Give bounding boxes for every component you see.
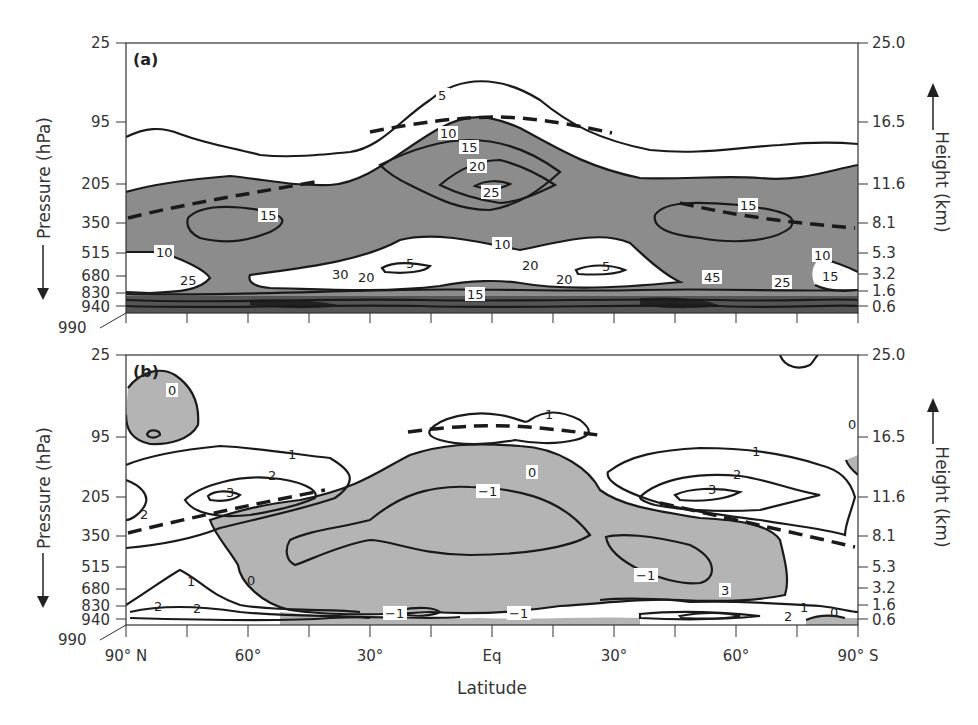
svg-text:515: 515 [81,558,110,576]
svg-text:20: 20 [358,270,375,285]
arrow-up-icon [927,83,939,97]
svg-text:25: 25 [91,346,110,364]
svg-text:−1: −1 [636,568,655,583]
svg-text:25: 25 [483,185,500,200]
svg-text:11.6: 11.6 [872,175,905,193]
shaded-region-b [210,444,787,614]
svg-text:0: 0 [848,417,856,432]
pressure-axis-a: 25 95 205 350 515 680 830 940 990 [58,34,126,337]
svg-text:1: 1 [545,407,553,422]
svg-text:20: 20 [522,258,539,273]
svg-text:Pressure (hPa): Pressure (hPa) [34,117,54,239]
svg-text:680: 680 [81,580,110,598]
svg-text:16.5: 16.5 [872,113,905,131]
svg-text:15: 15 [461,140,478,155]
figure-canvas: 5 10 15 20 25 10 15 10 25 30 20 5 20 20 … [0,0,978,725]
svg-text:16.5: 16.5 [872,428,905,446]
svg-text:990: 990 [58,631,87,649]
x-axis-title: Latitude [457,678,527,698]
svg-text:−1: −1 [509,606,528,621]
height-axis-b: 25.0 16.5 11.6 8.1 5.3 3.2 1.6 0.6 [858,346,905,629]
svg-text:90° N: 90° N [105,647,148,665]
svg-text:60°: 60° [235,647,262,665]
svg-text:350: 350 [81,214,110,232]
svg-text:2: 2 [268,468,276,483]
svg-text:5: 5 [602,259,610,274]
panel-b: 0 1 2 3 2 1 0 2 2 1 0 −1 −1 −1 −1 1 2 3 … [126,355,858,625]
svg-text:2: 2 [733,467,741,482]
svg-text:8.1: 8.1 [872,527,896,545]
svg-text:25.0: 25.0 [872,34,905,52]
svg-text:680: 680 [81,267,110,285]
svg-text:2: 2 [193,601,201,616]
svg-text:0.6: 0.6 [872,298,896,316]
tropopause-line-b-eq [408,426,598,435]
svg-text:10: 10 [814,248,831,263]
svg-text:10: 10 [156,245,173,260]
svg-text:2: 2 [784,609,792,624]
svg-text:5: 5 [438,88,446,103]
y-axis-title-left-a: Pressure (hPa) [34,117,54,300]
svg-text:5.3: 5.3 [872,244,896,262]
svg-text:15: 15 [467,287,484,302]
arrow-down-icon [37,288,49,300]
svg-text:Eq: Eq [483,647,502,665]
svg-text:Height (km): Height (km) [932,446,952,547]
svg-text:5.3: 5.3 [872,558,896,576]
svg-text:990: 990 [58,319,87,337]
svg-text:2: 2 [140,507,148,522]
svg-text:25: 25 [180,273,197,288]
svg-text:0.6: 0.6 [872,611,896,629]
svg-text:15: 15 [260,208,277,223]
latitude-ticks-b [126,625,858,637]
svg-text:30°: 30° [601,647,628,665]
svg-text:45: 45 [704,270,721,285]
svg-text:350: 350 [81,527,110,545]
svg-text:3.2: 3.2 [872,265,896,283]
height-axis-a: 25.0 16.5 11.6 8.1 5.3 3.2 1.6 0.6 [858,34,905,316]
latitude-ticks-a [126,313,858,323]
svg-text:2: 2 [154,599,162,614]
svg-text:1: 1 [288,447,296,462]
svg-text:3: 3 [708,482,716,497]
y-axis-title-left-b: Pressure (hPa) [34,427,54,608]
latitude-tick-labels: 90° N 60° 30° Eq 30° 60° 90° S [105,647,879,665]
svg-text:0: 0 [830,605,838,620]
svg-text:20: 20 [469,159,486,174]
svg-text:1: 1 [752,444,760,459]
svg-text:0: 0 [528,465,536,480]
svg-text:940: 940 [81,611,110,629]
svg-text:30°: 30° [357,647,384,665]
svg-text:205: 205 [81,175,110,193]
svg-text:10: 10 [494,237,511,252]
svg-text:25: 25 [91,34,110,52]
svg-text:95: 95 [91,428,110,446]
svg-text:0: 0 [168,383,176,398]
svg-text:0: 0 [247,573,255,588]
svg-text:1: 1 [187,574,195,589]
y-axis-title-right-b: Height (km) [927,398,952,548]
panel-a: 5 10 15 20 25 10 15 10 25 30 20 5 20 20 … [126,43,858,313]
panel-label-a: (a) [133,50,158,69]
svg-text:8.1: 8.1 [872,214,896,232]
svg-text:940: 940 [81,298,110,316]
svg-text:90° S: 90° S [838,647,879,665]
svg-text:25.0: 25.0 [872,346,905,364]
svg-text:30: 30 [332,267,349,282]
arrow-up-icon [927,398,939,412]
svg-text:515: 515 [81,244,110,262]
pressure-axis-b: 25 95 205 350 515 680 830 940 990 [58,346,126,649]
svg-text:10: 10 [440,126,457,141]
panel-label-b: (b) [133,362,159,381]
svg-text:11.6: 11.6 [872,488,905,506]
svg-text:−1: −1 [385,606,404,621]
svg-text:1: 1 [800,600,808,615]
svg-text:Height (km): Height (km) [932,131,952,232]
svg-text:Pressure (hPa): Pressure (hPa) [34,427,54,549]
svg-text:3: 3 [721,583,729,598]
y-axis-title-right-a: Height (km) [927,83,952,233]
arrow-down-icon [37,596,49,608]
svg-text:15: 15 [822,269,839,284]
svg-text:3.2: 3.2 [872,579,896,597]
svg-text:−1: −1 [478,484,497,499]
